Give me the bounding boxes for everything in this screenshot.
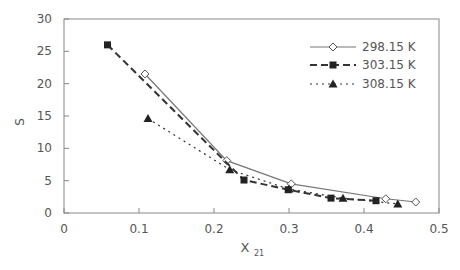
x-tick-label: 0.1 (129, 222, 148, 236)
y-tick-label: 25 (37, 44, 52, 58)
x-tick-label: 0 (60, 222, 68, 236)
legend-marker (329, 43, 337, 51)
legend-marker (330, 62, 337, 69)
y-tick-label: 10 (37, 141, 52, 155)
chart-svg: 05101520253000.10.20.30.40.5SX21298.15 K… (0, 0, 460, 270)
y-tick-label: 0 (44, 206, 52, 220)
legend-label: 298.15 K (362, 40, 417, 54)
y-tick-label: 5 (44, 174, 52, 188)
data-point (104, 41, 111, 48)
legend-label: 308.15 K (362, 77, 417, 91)
legend-label: 303.15 K (362, 58, 417, 72)
data-point (144, 114, 153, 122)
data-point (241, 177, 248, 184)
y-axis-label: S (13, 118, 27, 126)
y-tick-label: 30 (37, 12, 52, 26)
x-tick-label: 0.3 (279, 222, 298, 236)
y-tick-label: 20 (37, 77, 52, 91)
x-tick-label: 0.2 (204, 222, 223, 236)
data-point (373, 197, 380, 204)
x-axis-label-subscript: 21 (254, 249, 264, 258)
x-tick-label: 0.4 (354, 222, 373, 236)
series-line (148, 119, 398, 204)
data-point (382, 195, 390, 203)
x-tick-label: 0.5 (429, 222, 448, 236)
series-line (145, 74, 416, 202)
chart: 05101520253000.10.20.30.40.5SX21298.15 K… (0, 0, 460, 270)
y-tick-label: 15 (37, 109, 52, 123)
data-point (412, 198, 420, 206)
x-axis-label: X (241, 240, 250, 255)
